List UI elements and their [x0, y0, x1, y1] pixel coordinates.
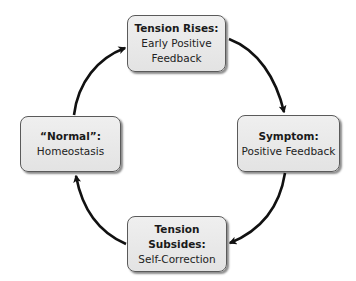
- node-symptom: Symptom: Positive Feedback: [237, 115, 340, 172]
- arrow-bottom-to-left: [76, 176, 126, 244]
- node-title: “Normal”:: [40, 129, 101, 144]
- node-subtitle: Feedback: [151, 51, 201, 66]
- node-tension-subsides: Tension Subsides: Self-Correction: [127, 216, 227, 272]
- node-normal: “Normal”: Homeostasis: [20, 116, 121, 172]
- arrow-left-to-top: [74, 48, 125, 115]
- node-subtitle: Self-Correction: [138, 252, 215, 267]
- arrow-top-to-right: [229, 39, 284, 112]
- arrow-right-to-bottom: [230, 173, 285, 243]
- node-subtitle: Early Positive: [141, 36, 211, 51]
- node-subtitle: Positive Feedback: [242, 144, 336, 159]
- node-subtitle: Homeostasis: [37, 144, 104, 159]
- node-title: Tension Rises:: [134, 21, 218, 36]
- node-tension-rises: Tension Rises: Early Positive Feedback: [127, 15, 226, 72]
- cycle-diagram: Tension Rises: Early Positive Feedback S…: [0, 0, 356, 281]
- node-title: Subsides:: [148, 237, 206, 252]
- node-title: Tension: [155, 222, 200, 237]
- node-title: Symptom:: [258, 129, 318, 144]
